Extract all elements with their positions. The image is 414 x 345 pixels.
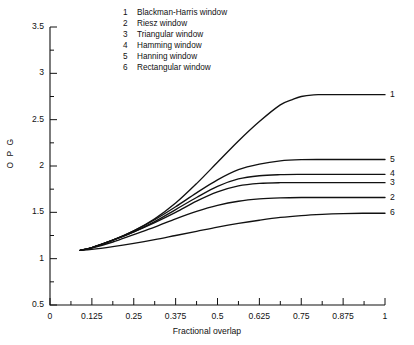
legend-label: Triangular window <box>137 30 203 41</box>
legend-key: 1 <box>123 8 137 19</box>
legend-key: 2 <box>123 19 137 30</box>
series-end-label-6: 6 <box>390 207 395 217</box>
legend-label: Rectangular window <box>137 63 211 74</box>
legend: 1 Blackman-Harris window 2 Riesz window … <box>123 8 227 73</box>
series-line-4 <box>80 174 385 250</box>
series-end-label-2: 2 <box>390 192 395 202</box>
y-tick-label: 3 <box>4 67 44 77</box>
legend-label: Hanning window <box>137 52 197 63</box>
legend-key: 4 <box>123 41 137 52</box>
legend-label: Riesz window <box>137 19 187 30</box>
y-tick-label: 2.5 <box>4 114 44 124</box>
legend-label: Blackman-Harris window <box>137 8 227 19</box>
legend-item: 4 Hamming window <box>123 41 227 52</box>
series-line-6 <box>80 213 385 250</box>
x-axis-title: Fractional overlap <box>0 326 414 336</box>
y-tick-label: 1 <box>4 253 44 263</box>
legend-key: 5 <box>123 52 137 63</box>
series-end-label-5: 5 <box>390 154 395 164</box>
series-end-label-1: 1 <box>390 89 395 99</box>
y-tick-label: 0.5 <box>4 299 44 309</box>
series-line-3 <box>80 183 385 251</box>
legend-key: 6 <box>123 63 137 74</box>
legend-item: 3 Triangular window <box>123 30 227 41</box>
legend-item: 6 Rectangular window <box>123 63 227 74</box>
legend-key: 3 <box>123 30 137 41</box>
y-tick-label: 3.5 <box>4 21 44 31</box>
y-tick-label: 1.5 <box>4 206 44 216</box>
series-end-label-3: 3 <box>390 177 395 187</box>
legend-item: 2 Riesz window <box>123 19 227 30</box>
x-tick-label: 1 <box>360 311 410 321</box>
legend-item: 1 Blackman-Harris window <box>123 8 227 19</box>
y-tick-label: 2 <box>4 160 44 170</box>
legend-item: 5 Hanning window <box>123 52 227 63</box>
y-axis-title: O P G <box>5 123 15 183</box>
legend-label: Hamming window <box>137 41 202 52</box>
